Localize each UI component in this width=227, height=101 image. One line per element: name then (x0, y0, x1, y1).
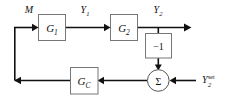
signal-label-y2-setpoint-sub: 2 (208, 81, 212, 88)
signal-label-m: M (24, 4, 34, 15)
block-diagram-svg: G1 G2 −1 GC Σ M Y1 Y2 Y 2 set (0, 0, 227, 101)
summing-junction-label: Σ (155, 76, 161, 87)
signal-label-y2-setpoint-sup: set (208, 74, 215, 80)
summing-junction[interactable]: Σ (148, 70, 170, 92)
process-block-g1[interactable]: G1 (39, 15, 66, 41)
signal-label-y2-setpoint: Y 2 set (202, 74, 215, 88)
arrowhead-sum-right-input (170, 77, 177, 84)
controller-block-gc[interactable]: GC (71, 68, 99, 95)
process-block-g2[interactable]: G2 (111, 15, 138, 41)
gain-block-negative-one-label: −1 (153, 41, 164, 52)
arrowhead-output (184, 24, 192, 32)
signal-label-y2: Y2 (154, 4, 164, 17)
arrowhead-g2-input (104, 24, 111, 31)
block-diagram-canvas: G1 G2 −1 GC Σ M Y1 Y2 Y 2 set (0, 0, 227, 101)
signal-label-y1: Y1 (81, 4, 90, 17)
arrowhead-g1-input (32, 24, 39, 31)
gain-block-negative-one[interactable]: −1 (146, 34, 172, 59)
